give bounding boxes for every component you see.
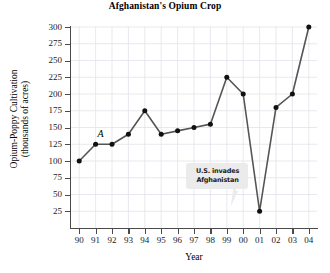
callout-line2: Afghanistan	[190, 176, 245, 185]
x-tick	[79, 229, 80, 234]
x-tick	[194, 229, 195, 234]
chart-figure: Afghanistan's Opium Crop Opium-Poppy Cul…	[0, 0, 330, 273]
x-tick	[145, 229, 146, 234]
data-series-line	[71, 27, 317, 228]
plot-area	[71, 27, 317, 228]
data-point	[306, 25, 311, 30]
data-point	[192, 125, 197, 130]
data-point	[274, 105, 279, 110]
data-point	[77, 159, 82, 164]
data-point	[126, 132, 131, 137]
x-axis-title: Year	[71, 252, 317, 262]
y-tick-label: 25	[32, 207, 62, 216]
x-tick	[243, 229, 244, 234]
y-axis-title-line1: Opium-Poppy Cultivation	[9, 70, 19, 169]
x-tick	[309, 229, 310, 234]
data-point	[290, 92, 295, 97]
y-tick-label: 200	[32, 90, 62, 99]
y-tick-label: 175	[32, 106, 62, 115]
y-axis-title: Opium-Poppy Cultivation (thousands of ac…	[9, 29, 31, 209]
y-tick-label: 275	[32, 39, 62, 48]
x-tick	[210, 229, 211, 234]
y-tick-label: 150	[32, 123, 62, 132]
y-tick-label: 75	[32, 173, 62, 182]
data-point	[142, 108, 147, 113]
x-tick	[227, 229, 228, 234]
data-point	[208, 122, 213, 127]
x-tick	[128, 229, 129, 234]
data-point	[159, 132, 164, 137]
x-tick	[161, 229, 162, 234]
y-tick-label: 225	[32, 73, 62, 82]
x-tick	[112, 229, 113, 234]
data-point	[93, 142, 98, 147]
y-axis-title-line2: (thousands of acres)	[20, 81, 30, 158]
point-label-a: A	[98, 128, 104, 139]
x-tick	[178, 229, 179, 234]
y-tick-label: 50	[32, 190, 62, 199]
y-tick-label: 250	[32, 56, 62, 65]
y-tick-label: 300	[32, 23, 62, 32]
x-tick-label: 04	[298, 236, 320, 245]
callout-line1: U.S. invades	[190, 167, 245, 176]
data-point	[257, 209, 262, 214]
data-point	[224, 75, 229, 80]
chart-title: Afghanistan's Opium Crop	[0, 1, 330, 11]
y-tick-label: 125	[32, 140, 62, 149]
callout-us-invades: U.S. invades Afghanistan	[186, 163, 248, 189]
x-tick	[260, 229, 261, 234]
y-tick-label: 100	[32, 157, 62, 166]
data-point	[175, 128, 180, 133]
data-point	[110, 142, 115, 147]
x-tick	[292, 229, 293, 234]
data-point	[241, 92, 246, 97]
x-tick	[276, 229, 277, 234]
x-tick	[96, 229, 97, 234]
